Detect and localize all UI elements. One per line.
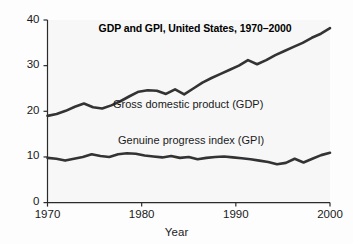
axis-spines bbox=[47, 20, 330, 203]
x-tick-label: 2000 bbox=[307, 208, 353, 220]
y-tick-label: 20 bbox=[14, 104, 40, 116]
chart-figure: GDP and GPI, United States, 1970–2000 Gr… bbox=[0, 0, 353, 244]
x-axis-ticks bbox=[48, 203, 331, 207]
y-tick-label: 40 bbox=[14, 13, 40, 25]
x-tick-label: 1980 bbox=[119, 208, 165, 220]
x-axis-title-wrapper: Year bbox=[0, 222, 353, 240]
y-tick-label: 0 bbox=[14, 195, 40, 207]
x-axis-title: Year bbox=[165, 226, 189, 238]
x-tick-label: 1990 bbox=[213, 208, 259, 220]
y-tick-label: 10 bbox=[14, 149, 40, 161]
x-tick-label: 1970 bbox=[25, 208, 71, 220]
series-label-gpi: Genuine progress index (GPI) bbox=[118, 134, 264, 146]
series-line-gpi bbox=[48, 153, 331, 164]
series-label-gdp: Gross domestic product (GDP) bbox=[113, 98, 263, 110]
y-tick-label: 30 bbox=[14, 58, 40, 70]
chart-title: GDP and GPI, United States, 1970–2000 bbox=[60, 22, 330, 34]
